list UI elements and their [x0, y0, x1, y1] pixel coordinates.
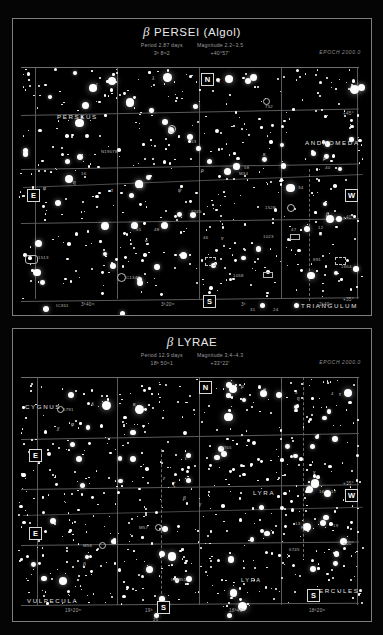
- star: [186, 502, 188, 504]
- chart-beta-persei: PERSEUSANDROMEDATRIANGULUMNSEW+45°+40°+3…: [12, 18, 372, 316]
- star: [162, 450, 164, 452]
- bright-star-14: [43, 306, 49, 312]
- star: [253, 402, 254, 403]
- star: [196, 379, 197, 380]
- star: [119, 94, 121, 96]
- star: [169, 162, 171, 164]
- star: [318, 563, 319, 564]
- star: [79, 277, 80, 278]
- star: [353, 266, 359, 272]
- star: [316, 270, 317, 271]
- star: [58, 236, 59, 237]
- star: [247, 179, 248, 180]
- star: [130, 534, 131, 535]
- ra-gridline-2: [199, 377, 200, 605]
- star: [224, 196, 225, 197]
- star: [101, 292, 104, 295]
- star: [309, 385, 310, 386]
- star: [25, 478, 26, 479]
- star: [357, 220, 358, 221]
- star: [122, 421, 124, 423]
- ra-gridline-3: [281, 377, 282, 605]
- bright-star-4: [108, 77, 116, 85]
- star: [33, 269, 40, 276]
- greek-star-label-1: λ: [152, 75, 154, 81]
- star: [284, 508, 286, 510]
- star: [22, 428, 24, 430]
- star: [174, 267, 176, 269]
- star: [218, 194, 220, 196]
- compass-east: E: [27, 189, 40, 202]
- star: [229, 278, 233, 282]
- star: [38, 462, 40, 464]
- star: [226, 103, 227, 104]
- star: [119, 394, 120, 395]
- bright-star-12: [161, 222, 168, 229]
- star-chart-page: PERSEUSANDROMEDATRIANGULUMNSEW+45°+40°+3…: [0, 0, 383, 635]
- star: [220, 132, 222, 134]
- star: [104, 526, 105, 527]
- star: [291, 508, 294, 511]
- star: [269, 140, 272, 143]
- greek-star-label-8: κ: [263, 151, 266, 157]
- star: [186, 478, 192, 484]
- star: [73, 71, 77, 75]
- star: [54, 426, 56, 428]
- star: [224, 267, 226, 269]
- star: [158, 393, 160, 395]
- star: [280, 261, 281, 262]
- star: [246, 409, 248, 411]
- star: [104, 94, 107, 97]
- star: [315, 110, 317, 112]
- star: [346, 259, 349, 262]
- star: [232, 278, 235, 281]
- constellation-label-andromeda: ANDROMEDA: [305, 139, 360, 146]
- star: [165, 210, 167, 212]
- star: [215, 129, 219, 133]
- dso-label-1513: 1513: [38, 255, 49, 260]
- dso-label-1058: 1058: [233, 273, 244, 278]
- star: [336, 405, 337, 406]
- star: [283, 120, 285, 122]
- star: [297, 249, 300, 252]
- ra-gridline-0: [35, 67, 36, 299]
- star: [96, 470, 98, 472]
- bright-star-11: [59, 577, 67, 585]
- star: [54, 68, 57, 71]
- star: [59, 91, 60, 92]
- star: [123, 232, 126, 235]
- star: [107, 443, 108, 444]
- greek-star-label-7: ι: [185, 455, 187, 461]
- star: [96, 549, 98, 551]
- star: [160, 217, 161, 218]
- star: [230, 597, 233, 600]
- star: [23, 195, 24, 196]
- star: [324, 115, 327, 118]
- star: [254, 86, 256, 88]
- star: [25, 417, 27, 419]
- star: [357, 114, 360, 117]
- star: [96, 206, 98, 208]
- star: [243, 560, 245, 562]
- dso-label-6791: 6791: [63, 407, 74, 412]
- star: [22, 298, 24, 300]
- star: [317, 69, 318, 70]
- star: [133, 96, 136, 99]
- star: [181, 98, 182, 99]
- star: [196, 268, 197, 269]
- cluster-marker-c1342: [117, 273, 126, 282]
- bright-star-20: [207, 159, 212, 164]
- star: [204, 412, 205, 413]
- numeric-star-label-9: 24: [273, 307, 278, 312]
- star: [293, 454, 297, 458]
- star: [313, 406, 314, 407]
- star: [85, 555, 89, 559]
- star: [208, 405, 210, 407]
- star: [81, 218, 82, 219]
- star: [246, 430, 247, 431]
- greek-star-label-13: μ: [323, 155, 326, 161]
- bright-star-5: [68, 392, 74, 398]
- greek-star-label-9: ε: [163, 475, 165, 481]
- star: [183, 431, 187, 435]
- star: [189, 395, 191, 397]
